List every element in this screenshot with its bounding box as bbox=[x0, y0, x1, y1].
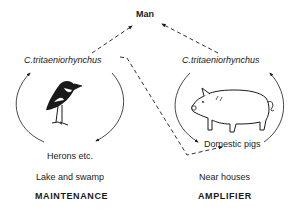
left-habitat-label: Lake and swamp bbox=[36, 172, 104, 182]
right-habitat-label: Near houses bbox=[199, 172, 250, 182]
right-host-label: Domestic pigs bbox=[204, 139, 261, 149]
left-vector-label: C.tritaeniorhynchus bbox=[24, 55, 102, 65]
right-vector-label: C.tritaeniorhynchus bbox=[182, 55, 260, 65]
pig-icon bbox=[192, 88, 274, 132]
right-vector-to-man-arrow bbox=[162, 24, 218, 53]
heron-bird-icon bbox=[46, 81, 82, 125]
left-host-label: Herons etc. bbox=[47, 151, 93, 161]
right-role-label: AMPLIFIER bbox=[198, 191, 252, 201]
left-vector-to-man-arrow bbox=[92, 26, 132, 53]
man-label: Man bbox=[136, 9, 154, 19]
left-role-label: MAINTENANCE bbox=[35, 191, 108, 201]
